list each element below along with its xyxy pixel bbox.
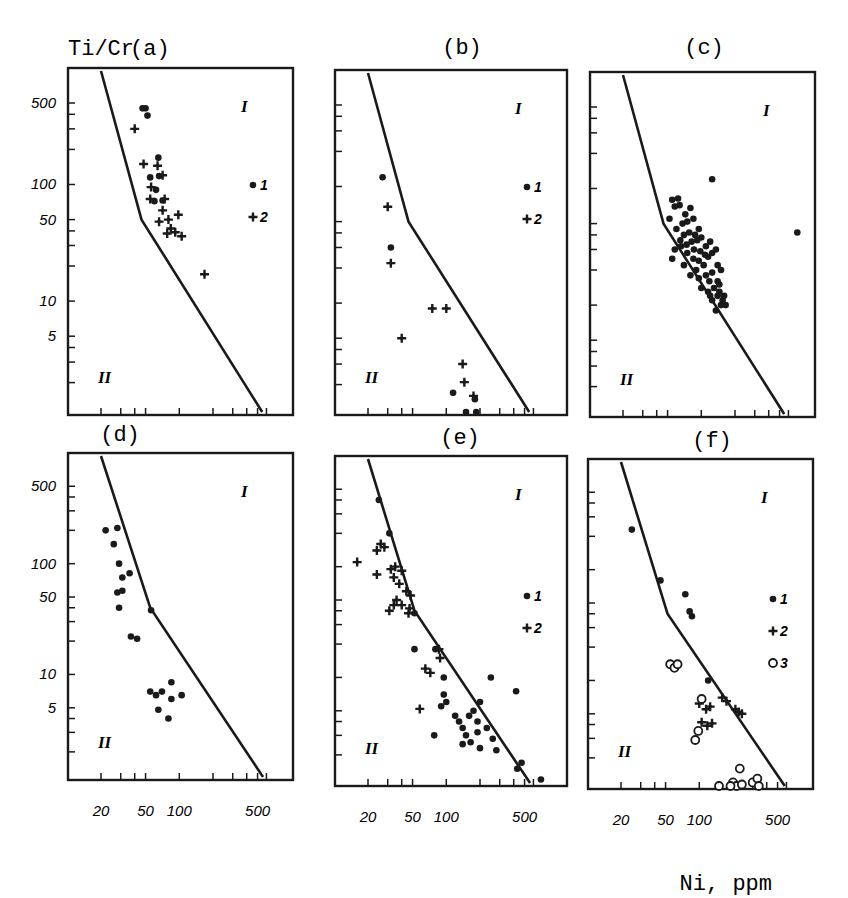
data-point-cross [397, 601, 406, 610]
data-point-dot [467, 739, 474, 746]
y-tick-label: 5 [48, 699, 57, 716]
panel-d: (d)500100501052050100500III [31, 423, 293, 819]
data-point-dot [703, 272, 710, 279]
y-tick-label: 10 [39, 292, 56, 309]
data-point-cross [153, 161, 162, 170]
data-point-dot [718, 267, 725, 274]
data-point-cross [404, 609, 413, 618]
data-point-dot [110, 541, 117, 548]
data-point-dot [431, 732, 438, 739]
region-label-lower: II [97, 733, 113, 752]
x-tick-label: 500 [245, 802, 271, 819]
data-point-dot [159, 688, 166, 695]
data-point-dot [677, 237, 684, 244]
data-point-dot [695, 226, 702, 233]
data-point-dot [770, 596, 777, 603]
data-point-dot [695, 257, 702, 264]
data-point-open-circle [769, 659, 777, 667]
data-point-dot [689, 613, 696, 620]
panel-e: (e)2050100500III12 [335, 426, 567, 825]
data-point-dot [178, 692, 185, 699]
data-point-dot [671, 246, 678, 253]
data-point-open-circle [691, 736, 699, 744]
data-point-dot [488, 674, 495, 681]
data-point-dot [684, 250, 691, 257]
data-point-dot [673, 226, 680, 233]
data-point-dot [688, 238, 695, 245]
data-point-dot [713, 307, 720, 314]
data-point-dot [709, 176, 716, 183]
data-point-dot [459, 741, 466, 748]
data-point-open-circle [755, 782, 763, 790]
data-point-dot [698, 285, 705, 292]
x-tick-label: 500 [512, 808, 538, 825]
x-tick-label: 20 [359, 808, 377, 825]
legend-label: 3 [780, 655, 788, 671]
discrimination-boundary [368, 459, 530, 783]
data-point-dot [147, 174, 154, 181]
panel-f: (f)2050100500III123 [588, 429, 813, 828]
panel-label: (b) [442, 36, 482, 61]
data-point-dot [142, 105, 149, 112]
data-point-cross [158, 206, 167, 215]
data-point-dot [675, 195, 682, 202]
data-point-dot [376, 497, 383, 504]
data-point-dot [794, 229, 801, 236]
data-point-dot [134, 635, 141, 642]
data-point-dot [657, 577, 664, 584]
data-point-dot [443, 699, 450, 706]
panel-label: (f) [692, 429, 732, 454]
region-label-upper: I [760, 488, 769, 507]
panel-c: (c)III [590, 36, 815, 417]
y-tick-label: 10 [39, 665, 56, 682]
data-point-cross [523, 215, 532, 224]
legend: 123 [769, 591, 789, 671]
data-point-cross [174, 210, 183, 219]
data-point-open-circle [736, 765, 744, 773]
data-point-cross [397, 334, 406, 343]
legend: 12 [523, 179, 543, 227]
x-tick-label: 50 [657, 811, 674, 828]
data-point-dot [144, 112, 151, 119]
data-point-open-circle [715, 782, 723, 790]
region-label-lower: II [364, 739, 380, 758]
data-point-dot [440, 674, 447, 681]
region-label-upper: I [762, 101, 771, 120]
data-point-dot [666, 215, 673, 222]
data-point-dot [128, 633, 135, 640]
data-point-dot [538, 776, 545, 783]
legend-label: 1 [780, 591, 788, 607]
data-point-cross [164, 215, 173, 224]
data-point-dot [463, 732, 470, 739]
data-point-dot [716, 281, 723, 288]
legend: 12 [523, 588, 543, 636]
data-point-open-circle [698, 695, 706, 703]
data-point-dot [684, 218, 691, 225]
data-point-cross [372, 570, 381, 579]
discrimination-boundary [101, 71, 262, 412]
data-point-dot [709, 269, 716, 276]
data-point-cross [523, 624, 532, 633]
data-point-dot [707, 293, 714, 300]
data-point-dot [682, 591, 689, 598]
data-point-dot [695, 275, 702, 282]
data-point-dot [168, 679, 175, 686]
series-1 [102, 525, 185, 722]
legend-label: 2 [533, 620, 542, 636]
data-point-dot [489, 735, 496, 742]
series-1 [666, 176, 800, 314]
data-point-cross [389, 573, 398, 582]
data-point-dot [700, 262, 707, 269]
x-tick-label: 100 [167, 802, 193, 819]
data-point-dot [148, 607, 155, 614]
data-point-dot [669, 196, 676, 203]
data-point-dot [155, 706, 162, 713]
data-point-dot [126, 570, 133, 577]
data-point-cross [458, 360, 467, 369]
panel-b: (b)III12 [335, 36, 567, 415]
data-point-dot [463, 409, 470, 416]
data-point-dot [721, 293, 728, 300]
data-point-dot [514, 765, 521, 772]
data-point-dot [713, 246, 720, 253]
data-point-dot [687, 272, 694, 279]
